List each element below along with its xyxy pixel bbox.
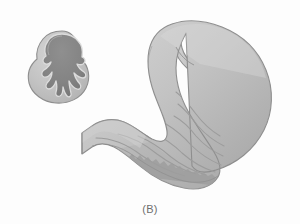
stomach-illustration: [0, 0, 300, 224]
figure-panel: (B) Anterior view of the stomach with es…: [0, 0, 300, 224]
panel-caption: (B): [0, 203, 300, 216]
